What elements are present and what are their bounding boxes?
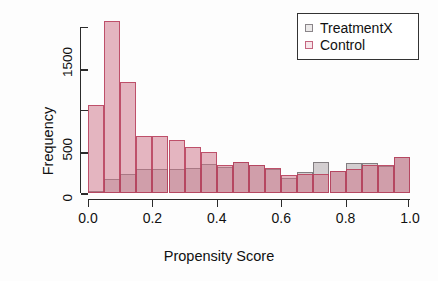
y-axis-tick-4 <box>81 27 88 28</box>
bar-ctrl-6 <box>185 147 201 193</box>
bar-ctrl-18 <box>378 165 394 193</box>
bar-ctrl-17 <box>362 165 378 193</box>
chart-legend: TreatmentX Control <box>297 13 419 60</box>
y-axis-tick-0 <box>81 193 88 195</box>
treatmentx-legend-key <box>305 24 313 32</box>
y-axis-title: Frequency <box>40 106 56 175</box>
bar-ctrl-13 <box>297 174 313 193</box>
legend-label-treatmentx: TreatmentX <box>320 21 393 35</box>
bar-ctrl-14 <box>313 174 329 193</box>
bar-ctrl-4 <box>152 136 168 193</box>
y-axis-tick-label-3: 1500 <box>61 47 75 77</box>
bar-ctrl-2 <box>120 82 136 193</box>
bar-ctrl-1 <box>104 21 120 193</box>
x-axis-tick-5 <box>408 200 409 207</box>
y-axis-tick-3 <box>81 69 88 71</box>
x-axis: 0.00.20.40.60.81.0 <box>88 199 410 207</box>
control-legend-key <box>305 41 313 49</box>
x-axis-tick-label-0: 0.0 <box>78 210 97 226</box>
y-axis-tick-2 <box>81 110 88 111</box>
bar-ctrl-5 <box>169 140 185 193</box>
histogram-figure: Frequency 0.00.20.40.60.81.0 Propensity … <box>0 0 438 281</box>
bar-ctrl-0 <box>88 105 104 193</box>
bar-ctrl-7 <box>201 152 217 193</box>
x-axis-tick-label-1: 0.2 <box>143 210 162 226</box>
x-axis-tick-label-5: 1.0 <box>400 210 419 226</box>
x-axis-tick-2 <box>217 200 218 207</box>
bar-ctrl-9 <box>233 162 249 193</box>
bar-ctrl-8 <box>217 165 233 193</box>
x-axis-tick-label-4: 0.8 <box>336 210 355 226</box>
x-axis-tick-4 <box>346 200 347 207</box>
x-axis-tick-0 <box>88 200 89 207</box>
y-axis-tick-1 <box>81 152 88 154</box>
bar-ctrl-12 <box>281 175 297 193</box>
x-axis-tick-1 <box>152 200 153 207</box>
legend-label-control: Control <box>320 38 365 52</box>
y-axis-tick-label-1: 500 <box>61 138 75 161</box>
x-axis-title: Propensity Score <box>0 248 438 264</box>
y-axis-tick-label-0: 0 <box>61 194 75 202</box>
bar-ctrl-11 <box>265 168 281 193</box>
y-axis <box>80 27 88 193</box>
bar-ctrl-15 <box>330 171 346 193</box>
bar-ctrl-19 <box>394 157 410 193</box>
x-axis-tick-label-2: 0.4 <box>207 210 226 226</box>
legend-item-control: Control <box>305 36 412 53</box>
x-axis-tick-label-3: 0.6 <box>271 210 290 226</box>
bar-ctrl-3 <box>136 136 152 193</box>
x-axis-tick-3 <box>281 200 282 207</box>
bar-ctrl-16 <box>346 169 362 193</box>
legend-item-treatmentx: TreatmentX <box>305 19 412 36</box>
bar-ctrl-10 <box>249 165 265 193</box>
